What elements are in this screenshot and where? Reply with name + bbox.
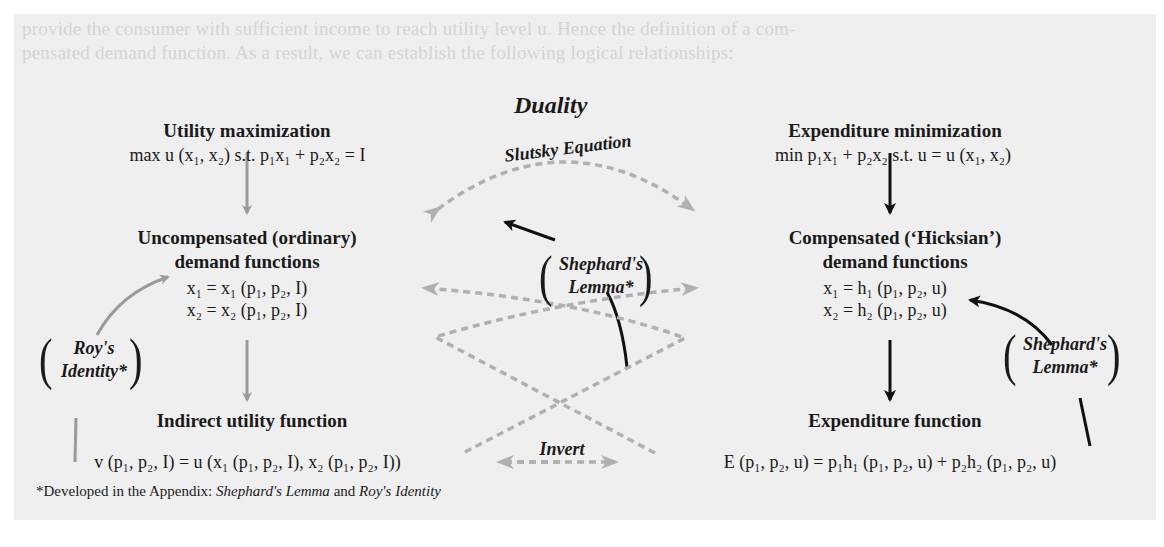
footnote-term-roy: Roy's Identity [359, 483, 441, 499]
shephard-center-paren-left: ( [539, 247, 553, 305]
shephard-right-label-1: Shephard's [1015, 333, 1115, 356]
uncompensated-demand-heading-2: demand functions [112, 251, 382, 273]
uncompensated-demand-eq-1: x₁ = x₁ (p₁, p₂, I) [147, 278, 347, 299]
roys-identity-label-1: Roy's [52, 337, 136, 360]
footnote: *Developed in the Appendix: Shephard's L… [36, 483, 441, 500]
indirect-utility-equation: v (p₁, p₂, I) = u (x₁ (p₁, p₂, I), x₂ (p… [55, 452, 440, 473]
shephard-right-label-2: Lemma* [1015, 356, 1115, 379]
expenditure-minimization-heading: Expenditure minimization [780, 120, 1010, 142]
compensated-demand-heading-2: demand functions [770, 251, 1020, 273]
expenditure-minimization-equation: min p₁x₁ + p₂x₂ s.t. u = u (x₁, x₂) [748, 145, 1038, 166]
compensated-demand-eq-1: x₁ = h₁ (p₁, p₂, u) [805, 278, 965, 299]
invert-label: Invert [532, 438, 592, 461]
expenditure-function-equation: E (p₁, p₂, u) = p₁h₁ (p₁, p₂, u) + p₂h₂ … [680, 452, 1100, 473]
arrow-slutsky-equation [438, 162, 692, 209]
roys-identity-label-2: Identity* [52, 360, 136, 383]
arrow-expenditure-to-uncompensated [435, 288, 695, 453]
compensated-demand-eq-2: x₂ = h₂ (p₁, p₂, u) [805, 300, 965, 321]
shephard-center-label-1: Shephard's [552, 253, 650, 276]
shephard-center-label-2: Lemma* [552, 276, 650, 299]
uncompensated-demand-heading-1: Uncompensated (ordinary) [112, 227, 382, 249]
utility-maximization-heading: Utility maximization [147, 120, 347, 142]
roys-identity-paren-left: ( [39, 330, 53, 388]
compensated-demand-heading-1: Compensated (‘Hicksian’) [770, 227, 1020, 249]
uncompensated-demand-eq-2: x₂ = x₂ (p₁, p₂, I) [147, 300, 347, 321]
arrow-shephard-center [607, 292, 627, 367]
diagram-title: Duality [514, 92, 587, 119]
footnote-prefix: *Developed in the Appendix: [36, 483, 216, 499]
arrow-indirect-to-hicksian [425, 288, 685, 452]
footnote-term-shephard: Shephard's Lemma [216, 483, 330, 499]
expenditure-function-heading: Expenditure function [790, 410, 1000, 432]
arrow-shephard-right [1080, 398, 1090, 446]
footnote-joiner: and [330, 483, 359, 499]
indirect-utility-heading: Indirect utility function [132, 410, 372, 432]
utility-maximization-equation: max u (x₁, x₂) s.t. p₁x₁ + p₂x₂ = I [95, 145, 400, 166]
